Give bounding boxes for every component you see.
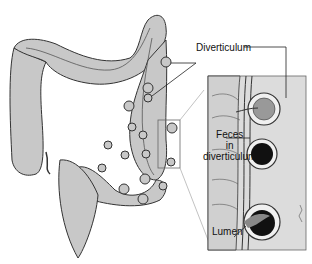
label-diverticulum: Diverticulum xyxy=(196,42,251,53)
label-feces-in-diverticulum: Feces in diverticulum xyxy=(203,129,256,162)
label-feces-line1: Feces xyxy=(203,129,256,140)
label-feces-line2: in xyxy=(203,140,256,151)
colon-diagram xyxy=(0,0,312,264)
label-lumen: Lumen xyxy=(212,226,243,237)
appendix xyxy=(46,152,50,174)
ascending-colon xyxy=(10,48,46,175)
label-feces-line3: diverticulum xyxy=(203,151,256,162)
inset-magnified-view xyxy=(208,76,306,250)
